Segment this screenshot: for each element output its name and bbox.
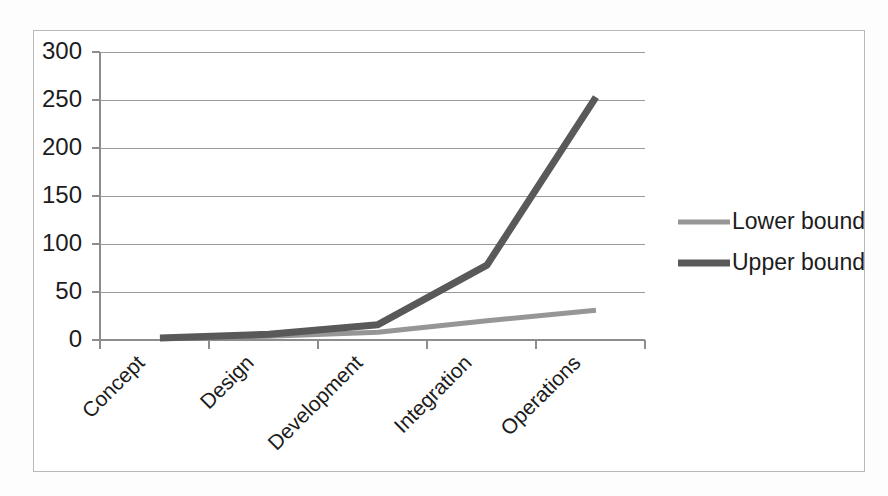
x-category-label-integration: Integration [389, 351, 475, 437]
chart-container: 050100150200250300 ConceptDesignDevelopm… [0, 0, 888, 496]
series-line-upper-bound [160, 97, 596, 338]
legend-label-lower-bound: Lower bound [732, 208, 865, 234]
y-tick-group [92, 52, 100, 340]
x-tick-group [100, 340, 645, 349]
gridline-group [100, 52, 645, 340]
data-series-group [160, 97, 596, 338]
line-chart: 050100150200250300 ConceptDesignDevelopm… [0, 0, 888, 496]
y-tick-label-300: 300 [42, 37, 82, 64]
legend-label-upper-bound: Upper bound [732, 249, 865, 275]
x-category-label-concept: Concept [77, 350, 149, 422]
x-category-label-group: ConceptDesignDevelopmentIntegrationOpera… [77, 350, 585, 454]
y-tick-label-100: 100 [42, 229, 82, 256]
x-category-label-design: Design [195, 351, 257, 413]
chart-legend: Lower boundUpper bound [678, 208, 865, 275]
y-tick-label-150: 150 [42, 181, 82, 208]
y-tick-label-50: 50 [55, 277, 82, 304]
x-category-label-operations: Operations [496, 351, 585, 440]
x-category-label-development: Development [263, 350, 367, 454]
y-tick-label-group: 050100150200250300 [42, 37, 82, 352]
y-tick-label-250: 250 [42, 85, 82, 112]
y-tick-label-0: 0 [69, 325, 82, 352]
y-tick-label-200: 200 [42, 133, 82, 160]
